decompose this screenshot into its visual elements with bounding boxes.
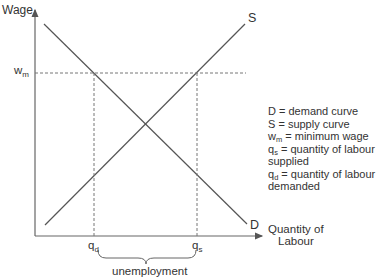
wm-sub: m — [22, 70, 29, 79]
demand-curve-label: D — [250, 219, 259, 232]
qs-sub: s — [198, 245, 202, 254]
legend-item-qs-cont: supplied — [268, 155, 375, 168]
legend-item-qd-cont: demanded — [268, 180, 375, 193]
qd-label: qd — [88, 240, 99, 252]
legend-item-qd: qd = quantity of labour — [268, 168, 375, 181]
legend-item-demand: D = demand curve — [268, 105, 375, 118]
y-axis-label: Wage — [2, 4, 33, 16]
legend-item-minimum-wage: wm = minimum wage — [268, 130, 375, 143]
x-axis-label: Quantity of Labour — [268, 223, 324, 247]
legend-item-qs: qs = quantity of labour — [268, 143, 375, 156]
qd-sub: d — [94, 245, 98, 254]
x-axis-label-line1: Quantity of — [268, 223, 324, 235]
wm-label: wm — [14, 65, 29, 77]
qs-label: qs — [192, 240, 202, 252]
legend: D = demand curve S = supply curve wm = m… — [268, 105, 375, 193]
unemployment-label: unemployment — [112, 266, 187, 278]
legend-item-supply: S = supply curve — [268, 118, 375, 131]
supply-curve-label: S — [248, 12, 256, 25]
unemployment-brace — [98, 250, 196, 264]
x-axis-label-line2: Labour — [268, 235, 324, 247]
